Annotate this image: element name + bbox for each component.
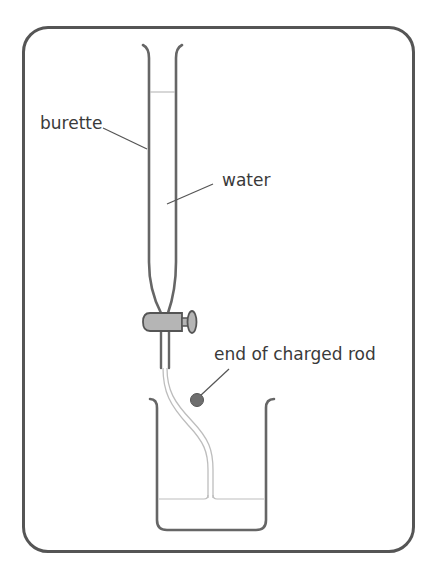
burette-label-leader [103,128,147,149]
apparatus-diagram [0,0,438,571]
beaker-water-surface [159,495,264,499]
nozzle [161,330,169,368]
water-stream [163,368,213,498]
charged-rod-end [191,394,204,407]
rod-label-leader [200,369,229,396]
burette-label: burette [40,115,102,132]
beaker [150,399,274,530]
water-label-leader [167,184,213,204]
charged-rod-label: end of charged rod [214,346,376,363]
water-label: water [222,172,270,189]
burette [143,45,182,313]
tap[interactable] [143,311,197,333]
